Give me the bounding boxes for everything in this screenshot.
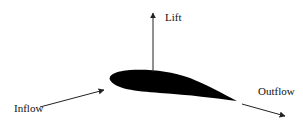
- outflow-label: Outflow: [258, 85, 295, 97]
- inflow-arrow: [40, 90, 104, 107]
- lift-label: Lift: [165, 11, 182, 23]
- airfoil-shape: [110, 70, 237, 101]
- airfoil-diagram: Lift Inflow Outflow: [0, 0, 303, 123]
- inflow-label: Inflow: [14, 102, 43, 114]
- outflow-arrow: [242, 104, 285, 116]
